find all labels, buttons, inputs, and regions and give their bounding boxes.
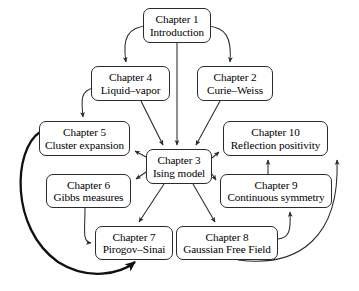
- chapter-dependency-diagram: Chapter 1 Introduction Chapter 2 Curie–W…: [0, 0, 359, 291]
- node-chapter-2[interactable]: Chapter 2 Curie–Weiss: [197, 66, 273, 101]
- node-title-label: Curie–Weiss: [207, 84, 263, 96]
- node-title-label: Gibbs measures: [54, 191, 124, 203]
- edge-ch4-ch3: [141, 101, 163, 145]
- node-chapter-9[interactable]: Chapter 9 Continuous symmetry: [220, 174, 332, 208]
- node-chapter-8[interactable]: Chapter 8 Gaussian Free Field: [176, 226, 278, 260]
- node-title-label: Reflection positivity: [231, 139, 321, 151]
- edge-ch3-ch7: [139, 184, 164, 222]
- node-chapter-label: Chapter 9: [255, 179, 298, 191]
- node-chapter-4[interactable]: Chapter 4 Liquid–vapor: [91, 66, 170, 101]
- edge-ch3-ch8: [193, 184, 215, 222]
- edge-ch3-ch10: [212, 152, 219, 158]
- node-chapter-label: Chapter 7: [113, 231, 156, 243]
- node-chapter-label: Chapter 8: [206, 231, 249, 243]
- node-chapter-6[interactable]: Chapter 6 Gibbs measures: [46, 174, 131, 208]
- edge-ch2-ch3: [196, 101, 220, 145]
- node-title-label: Gaussian Free Field: [183, 243, 271, 255]
- node-title-label: Introduction: [150, 26, 204, 38]
- node-chapter-label: Chapter 2: [214, 71, 257, 83]
- node-chapter-label: Chapter 3: [158, 154, 201, 166]
- node-title-label: Pirogov–Sinai: [103, 243, 166, 255]
- node-chapter-10[interactable]: Chapter 10 Reflection positivity: [223, 121, 328, 156]
- node-chapter-7[interactable]: Chapter 7 Pirogov–Sinai: [95, 226, 173, 260]
- edge-ch3-ch5: [135, 151, 146, 157]
- edge-ch8-ch9: [278, 212, 290, 239]
- node-title-label: Ising model: [153, 167, 205, 179]
- node-chapter-label: Chapter 5: [63, 126, 106, 138]
- node-chapter-1[interactable]: Chapter 1 Introduction: [143, 8, 211, 43]
- node-title-label: Liquid–vapor: [101, 84, 161, 96]
- node-chapter-label: Chapter 10: [251, 126, 299, 138]
- node-chapter-label: Chapter 4: [109, 71, 152, 83]
- edge-ch3-ch6: [136, 172, 146, 179]
- node-chapter-3[interactable]: Chapter 3 Ising model: [146, 149, 212, 184]
- node-title-label: Continuous symmetry: [227, 191, 324, 203]
- edge-ch6-ch7: [85, 208, 91, 243]
- node-title-label: Cluster expansion: [45, 139, 124, 151]
- node-chapter-5[interactable]: Chapter 5 Cluster expansion: [39, 121, 130, 156]
- edge-ch3-ch9: [212, 174, 216, 180]
- node-chapter-label: Chapter 1: [156, 13, 199, 25]
- node-chapter-label: Chapter 6: [67, 179, 110, 191]
